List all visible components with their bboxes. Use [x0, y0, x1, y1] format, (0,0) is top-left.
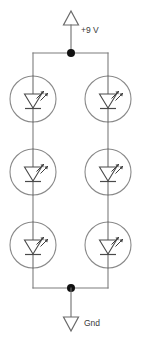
circuit-diagram: +9 V — [0, 0, 145, 349]
supply-junction-node — [67, 49, 75, 57]
led-right-top — [85, 76, 131, 122]
schematic-canvas: +9 V — [0, 0, 145, 349]
led-left-bottom — [10, 222, 56, 268]
supply-label: +9 V — [81, 25, 99, 35]
led-right-middle — [85, 149, 131, 195]
supply-triangle-icon — [64, 11, 79, 25]
led-diode-icon — [100, 91, 124, 109]
led-diode-icon — [25, 164, 49, 182]
ground-triangle-icon — [64, 317, 79, 331]
led-left-middle — [10, 149, 56, 195]
left-led-branch — [10, 76, 56, 288]
led-left-top — [10, 76, 56, 122]
led-diode-icon — [25, 91, 49, 109]
ground-label: Gnd — [84, 318, 100, 328]
led-diode-icon — [100, 237, 124, 255]
right-led-branch — [85, 76, 131, 288]
led-diode-icon — [25, 237, 49, 255]
led-diode-icon — [100, 164, 124, 182]
ground-terminal: Gnd — [64, 288, 101, 331]
power-supply-terminal: +9 V — [64, 11, 100, 53]
led-right-bottom — [85, 222, 131, 268]
